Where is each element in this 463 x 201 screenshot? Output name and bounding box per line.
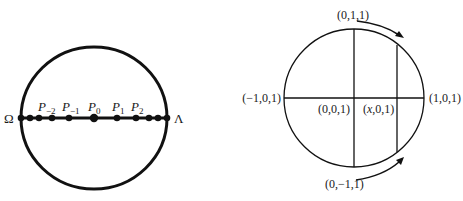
point-label-p-2: P2 — [130, 99, 143, 116]
diagram-canvas: Ω Λ P−2 P−1 P0 P1 P2 (0,1,1) (0,−1,1) (−… — [0, 0, 463, 201]
lambda-label: Λ — [174, 111, 184, 126]
sequence-dots — [18, 114, 171, 122]
point-label-p-minus-1: P−1 — [61, 99, 80, 116]
left-point-label: (−1,0,1) — [242, 91, 281, 105]
omega-label: Ω — [4, 111, 14, 126]
center-point-label: (0,0,1) — [318, 102, 350, 116]
top-point-label: (0,1,1) — [337, 8, 369, 22]
bottom-point-label: (0,−1,1) — [325, 177, 364, 191]
point-label-p-minus-2: P−2 — [37, 99, 56, 116]
right-point-label: (1,0,1) — [429, 91, 461, 105]
x-point-label: (x,0,1) — [363, 102, 394, 116]
point-label-p-1: P1 — [111, 99, 124, 116]
top-arrowhead-icon — [395, 31, 404, 38]
right-figure: (0,1,1) (0,−1,1) (−1,0,1) (1,0,1) (0,0,1… — [242, 8, 461, 191]
left-figure: Ω Λ P−2 P−1 P0 P1 P2 — [4, 47, 184, 189]
point-label-p-0: P0 — [87, 99, 101, 116]
